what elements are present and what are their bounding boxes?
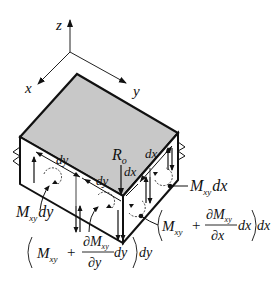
- svg-text:+: +: [192, 217, 200, 233]
- svg-text:dx: dx: [257, 218, 271, 233]
- right-break-symbol: [178, 142, 185, 160]
- dy-label-2: dy: [96, 173, 109, 188]
- svg-text:+: +: [67, 244, 75, 260]
- y-axis-label: y: [131, 83, 140, 99]
- label-front-left-moment: Mxy + ∂Mxy ∂y dy dy: [28, 234, 153, 270]
- svg-text:dy: dy: [139, 245, 153, 260]
- dx-label-1: dx: [145, 146, 158, 161]
- svg-text:dy: dy: [114, 245, 128, 260]
- svg-text:∂x: ∂x: [211, 228, 225, 243]
- dx-label-2: dx: [124, 164, 137, 179]
- svg-text:dx: dx: [238, 218, 252, 233]
- ro-label: R: [111, 146, 122, 163]
- label-front-right-moment: Mxy + ∂Mxy ∂x dx dx: [158, 207, 271, 243]
- x-axis-label: x: [24, 80, 32, 96]
- dy-label-1: dy: [56, 152, 69, 167]
- plate-diagram: z x y dy dy dx dx Ro: [0, 0, 276, 288]
- x-axis: [38, 52, 70, 84]
- svg-text:∂Mxy: ∂Mxy: [83, 234, 109, 251]
- ro-subscript: o: [122, 155, 127, 166]
- left-break-symbol: [13, 147, 20, 166]
- svg-text:∂Mxy: ∂Mxy: [206, 207, 232, 224]
- label-right-moment: Mxydx: [189, 177, 227, 197]
- label-left-moment: Mxydy: [15, 203, 54, 223]
- svg-text:Mxy: Mxy: [161, 218, 183, 237]
- z-axis-label: z: [55, 17, 62, 33]
- svg-text:Mxy: Mxy: [36, 245, 58, 264]
- svg-text:∂y: ∂y: [88, 255, 102, 270]
